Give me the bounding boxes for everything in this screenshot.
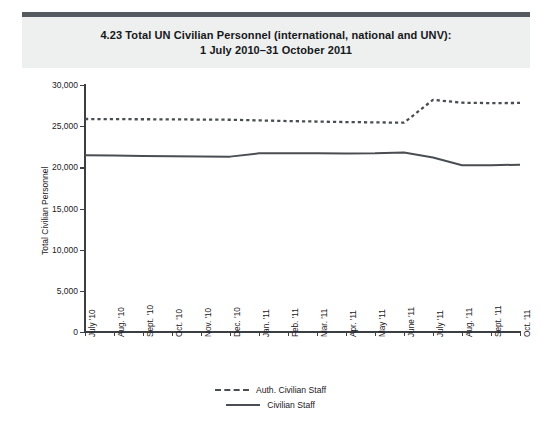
legend-swatch-solid-icon [226,404,260,406]
x-tick-label: July '11 [436,310,445,337]
legend-item-civilian-staff: Civilian Staff [226,400,315,410]
y-tick-mark [80,250,84,251]
series-line-auth-civilian-staff [85,100,520,123]
x-tick-label: Apr. '11 [349,310,358,337]
x-tick-mark [85,332,86,336]
x-tick-mark [346,332,347,336]
y-tick-label: 0 [73,327,78,337]
x-tick-label: June '11 [407,307,416,337]
y-tick-mark [80,85,84,86]
series-svg [85,85,520,332]
x-tick-mark [491,332,492,336]
y-axis-title: Total Civilian Personnel [40,167,50,255]
plot-area [85,85,520,332]
x-tick-label: Sept. '10 [146,305,155,337]
y-tick-label: 10,000 [52,245,78,255]
x-tick-mark [404,332,405,336]
x-tick-label: Oct. '10 [175,309,184,337]
x-tick-mark [143,332,144,336]
y-tick-mark [80,332,84,333]
y-tick-label: 30,000 [52,80,78,90]
x-tick-label: July '10 [88,309,97,337]
y-tick-label: 25,000 [52,121,78,131]
x-tick-label: Oct. '11 [523,310,532,337]
y-axis-labels: 05,00010,00015,00020,00025,00030,000 [22,0,78,431]
legend-item-auth-civilian-staff: Auth. Civilian Staff [215,385,326,395]
x-tick-mark [201,332,202,336]
series-line-civilian-staff [85,153,520,166]
chart-title-line2: 1 July 2010–31 October 2011 [200,43,352,58]
legend-label-civilian-staff: Civilian Staff [267,400,315,410]
chart-legend: Auth. Civilian Staff Civilian Staff [0,385,541,410]
y-tick-label: 20,000 [52,162,78,172]
x-tick-mark [462,332,463,336]
x-tick-mark [259,332,260,336]
y-tick-mark [80,291,84,292]
chart-figure: 4.23 Total UN Civilian Personnel (intern… [0,0,541,431]
x-tick-mark [288,332,289,336]
chart-title-line1: 4.23 Total UN Civilian Personnel (intern… [100,28,451,43]
chart-title: 4.23 Total UN Civilian Personnel (intern… [22,17,530,68]
x-tick-label: Feb. '11 [291,308,300,337]
x-tick-label: Jan. '11 [262,309,271,337]
x-tick-mark [520,332,521,336]
x-tick-mark [317,332,318,336]
x-tick-mark [230,332,231,336]
x-tick-label: Aug. '10 [117,307,126,337]
y-tick-mark [80,126,84,127]
x-tick-label: Mar. '11 [320,309,329,337]
x-tick-label: Aug. '11 [465,308,474,337]
legend-label-auth-civilian-staff: Auth. Civilian Staff [256,385,326,395]
x-tick-label: Dec. '10 [233,307,242,337]
x-tick-label: Sept. '11 [494,306,503,337]
x-tick-mark [375,332,376,336]
y-tick-label: 15,000 [52,204,78,214]
x-tick-mark [433,332,434,336]
x-tick-mark [114,332,115,336]
legend-swatch-dashed-icon [215,389,249,391]
x-tick-label: May '11 [378,309,387,337]
x-tick-mark [172,332,173,336]
y-tick-mark [80,167,84,168]
y-tick-label: 5,000 [57,286,78,296]
y-tick-mark [80,209,84,210]
x-tick-label: Nov. '10 [204,308,213,337]
